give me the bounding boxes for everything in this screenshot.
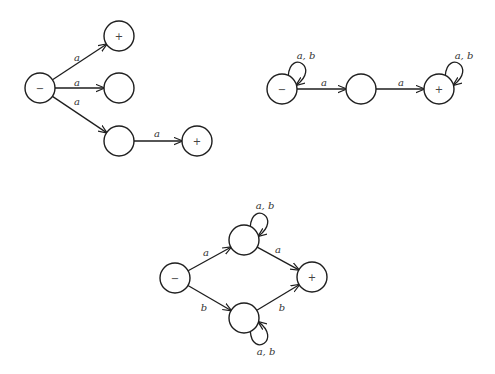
final-state-symbol: +: [115, 31, 123, 42]
state-node: [229, 225, 259, 255]
self-loop-label: a, b: [256, 200, 275, 211]
transition-label: a: [74, 96, 80, 107]
state-node: [229, 303, 259, 333]
transition-label: b: [279, 302, 285, 313]
start-state-symbol: −: [278, 84, 286, 95]
self-loop-label: a, b: [297, 50, 316, 61]
start-state-symbol: −: [171, 273, 179, 284]
transition-label: a: [203, 247, 209, 258]
transition-label: a: [74, 52, 80, 63]
transition-arrow: [188, 286, 231, 311]
state-node: [104, 73, 134, 103]
transition-label: a: [74, 77, 80, 88]
transition-label: a: [275, 244, 281, 255]
transition-label: a: [154, 128, 160, 139]
self-loop-label: a, b: [455, 50, 474, 61]
transition-label: a: [398, 77, 404, 88]
state-node: [346, 74, 376, 104]
final-state-symbol: +: [435, 84, 443, 95]
final-state-symbol: +: [193, 136, 201, 147]
transition-label: b: [201, 302, 207, 313]
start-state-symbol: −: [36, 83, 44, 94]
transition-label: a: [321, 77, 327, 88]
automata-diagrams: −++−+−+ aaaaaaa, ba, bababa, ba, b: [0, 0, 495, 374]
transition-arrow: [188, 247, 231, 271]
state-node: [104, 126, 134, 156]
final-state-symbol: +: [308, 272, 316, 283]
self-loop-label: a, b: [257, 346, 276, 357]
